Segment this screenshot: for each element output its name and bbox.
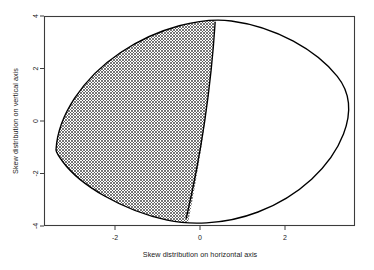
- x-axis-ticks: [115, 226, 285, 230]
- x-tick-label-neg2: -2: [112, 234, 118, 241]
- x-tick-label-0: 0: [198, 234, 202, 241]
- y-axis-ticks: [40, 16, 44, 226]
- y-tick-label-neg4: -4: [32, 223, 39, 229]
- plot-canvas: -2 0 2 -4 -2 0 2 4 Skew distribution on …: [0, 0, 374, 270]
- y-axis-title: Skew distribution on vertical axis: [11, 68, 20, 174]
- y-tick-label-neg2: -2: [32, 170, 39, 176]
- chart-figure: -2 0 2 -4 -2 0 2 4 Skew distribution on …: [0, 0, 374, 270]
- y-tick-label-2: 2: [32, 66, 39, 70]
- x-axis-title: Skew distribution on horizontal axis: [143, 250, 258, 259]
- y-tick-label-4: 4: [32, 14, 39, 18]
- x-tick-label-2: 2: [283, 234, 287, 241]
- y-tick-label-0: 0: [32, 119, 39, 123]
